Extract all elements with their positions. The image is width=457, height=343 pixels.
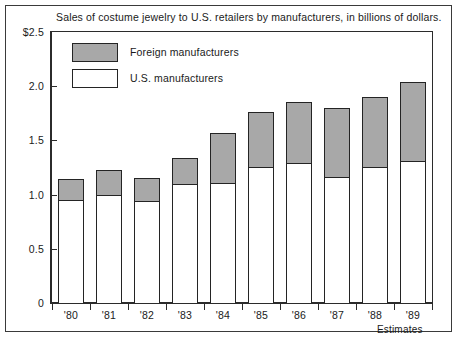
x-axis-tick-mark <box>280 304 281 310</box>
x-axis-tick-mark <box>52 304 53 310</box>
y-axis-tick-label: 1.0 <box>29 189 44 201</box>
y-axis-tick-label: 1.5 <box>29 134 44 146</box>
x-axis-tick-mark <box>90 304 91 310</box>
estimates-annotation: Estimates <box>377 324 423 335</box>
x-axis-tick-mark <box>242 304 243 310</box>
bar-segment-foreign <box>172 158 198 186</box>
chart-title: Sales of costume jewelry to U.S. retaile… <box>56 11 448 23</box>
bar-group <box>58 179 84 303</box>
x-axis-tick-label: '88 <box>355 309 395 321</box>
x-axis-tick-label: '86 <box>279 309 319 321</box>
y-axis-tick-mark <box>50 86 57 87</box>
x-axis-tick-mark <box>166 304 167 310</box>
x-axis-tick-label: '85 <box>241 309 281 321</box>
bar-segment-us <box>286 163 312 303</box>
y-axis-tick-label: $2.5 <box>23 26 44 38</box>
bar-group <box>286 102 312 303</box>
y-axis-tick-mark <box>50 195 57 196</box>
legend-label-us: U.S. manufacturers <box>130 72 223 84</box>
legend-swatch-foreign <box>72 43 118 62</box>
bar-group <box>96 170 122 303</box>
x-axis-tick-label: '82 <box>127 309 167 321</box>
bar-segment-foreign <box>286 102 312 164</box>
bar-segment-foreign <box>58 179 84 201</box>
x-axis-tick-mark <box>128 304 129 310</box>
bar-segment-us <box>134 201 160 303</box>
x-axis-tick-label: '83 <box>165 309 205 321</box>
bar-segment-foreign <box>324 108 350 179</box>
x-axis-tick-label: '80 <box>51 309 91 321</box>
x-axis-tick-mark <box>204 304 205 310</box>
bar-segment-foreign <box>210 133 236 184</box>
x-axis-tick-mark <box>318 304 319 310</box>
legend-label-foreign: Foreign manufacturers <box>130 46 239 58</box>
y-axis-tick-mark <box>50 140 57 141</box>
y-axis-tick-mark <box>50 249 57 250</box>
bar-segment-foreign <box>362 97 388 169</box>
y-axis-tick-label: 2.0 <box>29 80 44 92</box>
bar-group <box>210 133 236 303</box>
y-axis-tick-label: 0.5 <box>29 243 44 255</box>
y-axis-tick-labels: $2.52.01.51.00.50 <box>0 0 44 343</box>
bar-segment-foreign <box>134 178 160 202</box>
bar-segment-us <box>96 195 122 303</box>
bar-group <box>248 112 274 303</box>
x-axis-tick-mark <box>394 304 395 310</box>
bar-group <box>324 108 350 303</box>
x-axis-tick-mark <box>356 304 357 310</box>
bar-segment-us <box>172 184 198 303</box>
chart-figure: Sales of costume jewelry to U.S. retaile… <box>0 0 457 343</box>
x-axis-tick-label: '81 <box>89 309 129 321</box>
bar-segment-us <box>58 200 84 303</box>
x-axis-tick-mark <box>432 304 433 310</box>
legend-swatch-us <box>72 69 118 88</box>
bar-group <box>400 82 426 303</box>
bar-group <box>172 158 198 303</box>
bar-segment-us <box>362 167 388 303</box>
bar-group <box>134 178 160 303</box>
x-axis-tick-label: '89 <box>393 309 433 321</box>
bar-segment-us <box>210 183 236 303</box>
bar-segment-foreign <box>96 170 122 197</box>
bar-segment-us <box>248 167 274 303</box>
bar-segment-foreign <box>248 112 274 169</box>
bar-segment-us <box>324 177 350 303</box>
bar-segment-us <box>400 161 426 303</box>
x-axis-tick-label: '84 <box>203 309 243 321</box>
y-axis-tick-label: 0 <box>38 297 44 309</box>
bar-segment-foreign <box>400 82 426 163</box>
bar-group <box>362 97 388 303</box>
x-axis-tick-label: '87 <box>317 309 357 321</box>
